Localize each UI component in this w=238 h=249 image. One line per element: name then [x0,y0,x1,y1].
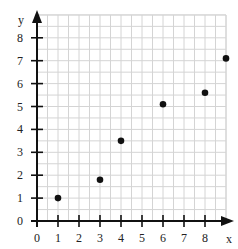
x-tick-label: 5 [139,231,145,245]
y-tick-label: 7 [17,54,23,68]
x-tick-label: 3 [97,231,103,245]
x-axis-arrow-icon [221,216,234,226]
axis-ticks: 012345678012345678 [17,31,208,245]
data-point [55,195,62,202]
scatter-chart: 012345678012345678 x y [0,0,238,249]
x-tick-label: 6 [160,231,166,245]
y-tick-label: 8 [17,31,23,45]
x-tick-label: 1 [55,231,61,245]
axes [31,10,234,227]
x-axis-label: x [226,232,232,246]
y-tick-label: 3 [17,145,23,159]
y-tick-label: 5 [17,100,23,114]
x-tick-label: 2 [76,231,82,245]
y-tick-label: 6 [17,77,23,91]
grid-lines [37,15,226,221]
data-point [223,55,230,62]
data-point [118,138,125,145]
y-axis-label: y [18,13,24,27]
data-point [160,101,167,108]
y-axis-arrow-icon [32,10,42,23]
x-tick-label: 8 [202,231,208,245]
data-point [202,89,209,96]
y-tick-label: 0 [17,214,23,228]
y-tick-label: 1 [17,191,23,205]
y-tick-label: 4 [17,122,23,136]
data-point [97,176,104,183]
y-tick-label: 2 [17,168,23,182]
x-tick-label: 4 [118,231,124,245]
x-tick-label: 0 [34,231,40,245]
x-tick-label: 7 [181,231,187,245]
